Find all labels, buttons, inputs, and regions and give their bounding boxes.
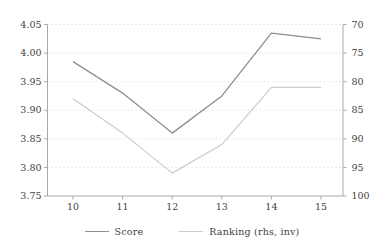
chart-canvas: 4.054.003.953.903.853.803.75707580859095… — [0, 0, 384, 249]
legend-label-score: Score — [115, 226, 144, 237]
ranking-line-swatch — [179, 231, 203, 232]
x-axis-label: 10 — [67, 201, 79, 212]
line-chart-figure: 4.054.003.953.903.853.803.75707580859095… — [0, 0, 384, 249]
score-line-swatch — [85, 231, 109, 232]
score-line — [73, 33, 321, 133]
y-axis-right-label: 75 — [352, 47, 364, 58]
y-axis-right-label: 95 — [352, 162, 364, 173]
y-axis-left-label: 3.75 — [20, 190, 41, 201]
x-axis-label: 11 — [117, 201, 129, 212]
legend-item-ranking: Ranking (rhs, inv) — [179, 226, 299, 237]
y-axis-left-label: 3.80 — [20, 162, 41, 173]
ranking-line — [73, 87, 321, 173]
y-axis-right-label: 85 — [352, 104, 364, 115]
x-axis-label: 12 — [166, 201, 178, 212]
legend-item-score: Score — [85, 226, 144, 237]
y-axis-right-label: 100 — [352, 190, 370, 201]
y-axis-left-label: 4.00 — [20, 47, 41, 58]
y-axis-left-label: 3.95 — [20, 76, 41, 87]
y-axis-right-label: 80 — [352, 76, 364, 87]
y-axis-right-label: 90 — [352, 133, 364, 144]
x-axis-label: 13 — [216, 201, 228, 212]
x-axis-label: 15 — [315, 201, 327, 212]
chart-legend: Score Ranking (rhs, inv) — [0, 226, 384, 237]
legend-label-ranking: Ranking (rhs, inv) — [209, 226, 299, 237]
y-axis-left-label: 3.90 — [20, 104, 41, 115]
y-axis-left-label: 3.85 — [20, 133, 41, 144]
x-axis-label: 14 — [265, 201, 277, 212]
y-axis-right-label: 70 — [352, 19, 364, 30]
y-axis-left-label: 4.05 — [20, 19, 41, 30]
